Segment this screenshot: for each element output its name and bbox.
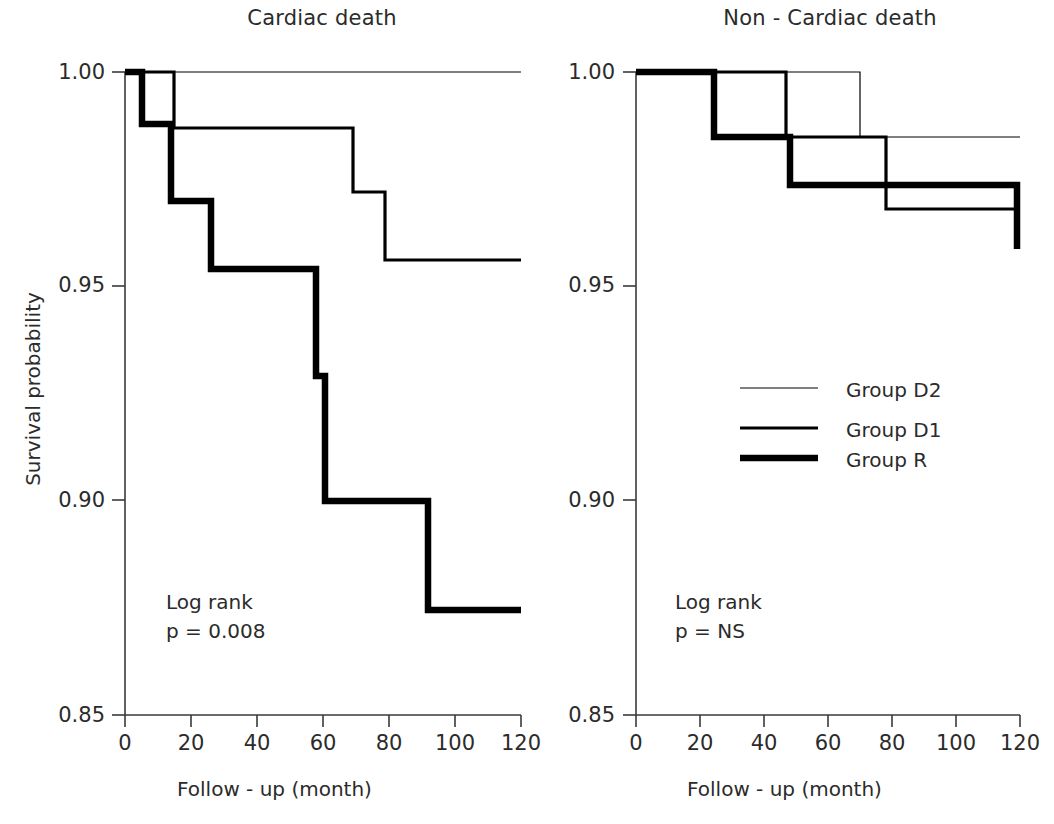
- curve-right-group-d2: [636, 72, 1020, 137]
- curves-right: [636, 72, 1020, 249]
- plot-svg: [0, 0, 1054, 824]
- survival-figure: Cardiac death Non - Cardiac death Surviv…: [0, 0, 1054, 824]
- legend-swatches: [740, 388, 818, 458]
- curve-right-group-r: [636, 72, 1017, 249]
- curve-left-group-r: [125, 72, 521, 610]
- axes-right: [623, 72, 1020, 727]
- curve-right-group-d1: [636, 72, 1020, 209]
- curve-left-group-d1: [125, 72, 521, 260]
- curves-left: [125, 72, 521, 610]
